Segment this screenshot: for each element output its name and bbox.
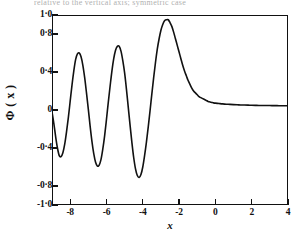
- x-tick-mark: [287, 199, 288, 205]
- curve-layer: [52, 15, 288, 205]
- x-tick-mark: [251, 199, 252, 205]
- x-tick-mark: [106, 199, 107, 205]
- y-axis-title: Φ ( x ): [4, 71, 17, 135]
- caption-remnant-text: relative to the vertical axis; symmetric…: [34, 0, 254, 7]
- x-tick-label: 0: [202, 207, 228, 217]
- y-tick-label: 0·4: [40, 67, 52, 77]
- figure-panel: relative to the vertical axis; symmetric…: [0, 0, 305, 240]
- phi-curve-svg: [52, 15, 288, 205]
- phi-curve-path: [52, 20, 288, 178]
- x-tick-label: 4: [275, 207, 301, 217]
- y-tick-label: 1·0: [40, 10, 52, 20]
- x-tick-mark: [142, 199, 143, 205]
- y-tick-label: 0: [47, 105, 52, 115]
- x-tick-label: 2: [239, 207, 265, 217]
- y-tick-mark: [52, 71, 58, 72]
- y-tick-label: -0·8: [37, 181, 52, 191]
- x-tick-mark: [215, 199, 216, 205]
- y-tick-mark: [52, 204, 58, 205]
- y-tick-mark: [52, 14, 58, 15]
- x-tick-label: -4: [130, 207, 156, 217]
- x-tick-mark: [178, 199, 179, 205]
- x-tick-label: -6: [93, 207, 119, 217]
- y-tick-label: -0·4: [37, 143, 52, 153]
- x-tick-mark: [70, 199, 71, 205]
- y-tick-label: 0·8: [40, 29, 52, 39]
- y-tick-mark: [52, 109, 58, 110]
- x-tick-label: -8: [57, 207, 83, 217]
- y-tick-mark: [52, 185, 58, 186]
- y-tick-mark: [52, 33, 58, 34]
- x-axis-title: x: [52, 219, 288, 231]
- x-tick-label: -2: [166, 207, 192, 217]
- y-tick-label: -1·0: [37, 200, 52, 210]
- y-tick-mark: [52, 147, 58, 148]
